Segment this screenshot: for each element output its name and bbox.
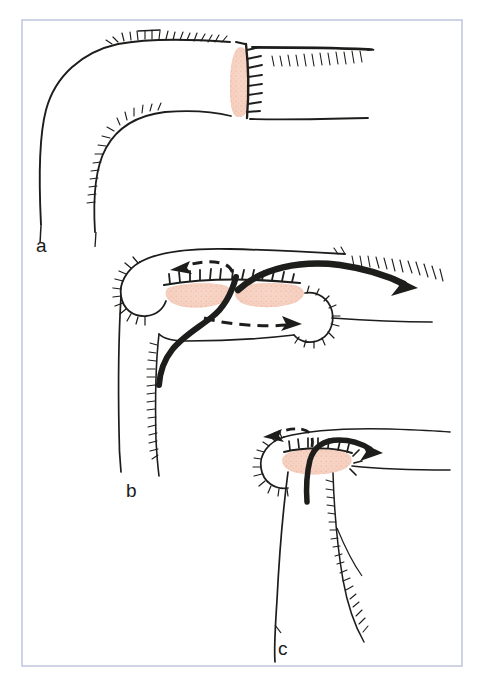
panel-label-a: a: [36, 235, 47, 256]
surgical-illustration: a: [0, 0, 479, 687]
panel-label-c: c: [278, 638, 288, 659]
panel-label-b: b: [126, 480, 137, 501]
figure-container: a: [0, 0, 479, 687]
